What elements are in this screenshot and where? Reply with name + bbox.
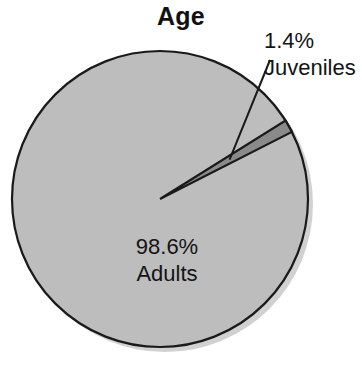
pie-chart-figure: Age 1.4% Juveniles 98.6% Adults <box>0 0 362 373</box>
adults-percent-text: 98.6% <box>108 233 226 260</box>
juveniles-name-text: Juveniles <box>264 54 356 81</box>
adults-name-text: Adults <box>108 260 226 287</box>
adults-label: 98.6% Adults <box>108 233 226 287</box>
juveniles-label: 1.4% Juveniles <box>264 27 356 81</box>
juveniles-percent-text: 1.4% <box>264 27 356 54</box>
